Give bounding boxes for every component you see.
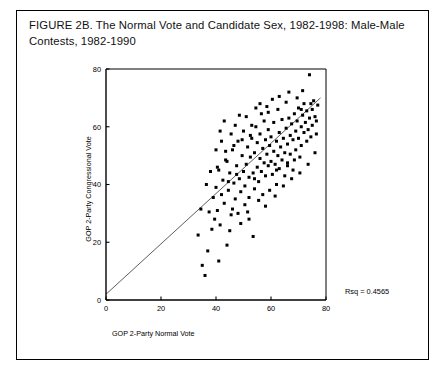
data-point (230, 132, 233, 135)
data-point (305, 109, 308, 112)
data-point (237, 212, 240, 215)
data-point (311, 108, 314, 111)
data-point (286, 143, 289, 146)
data-point (259, 132, 262, 135)
data-points (197, 73, 320, 277)
data-point (274, 163, 277, 166)
data-point (286, 164, 289, 167)
data-point (300, 144, 303, 147)
data-point (309, 135, 312, 138)
data-point (201, 264, 204, 267)
x-tick-label: 0 (104, 304, 108, 313)
data-point (312, 99, 315, 102)
data-point (232, 182, 235, 185)
data-point (264, 174, 267, 177)
y-tick-label: 80 (93, 65, 101, 74)
data-point (215, 148, 218, 151)
data-point (305, 140, 308, 143)
data-point (216, 209, 219, 212)
data-point (208, 210, 211, 213)
data-point (206, 249, 209, 252)
data-point (226, 244, 229, 247)
data-point (254, 106, 257, 109)
data-point (227, 180, 230, 183)
data-point (216, 166, 219, 169)
x-tick-label: 80 (322, 304, 330, 313)
data-point (241, 138, 244, 141)
data-point (263, 119, 266, 122)
data-point (282, 184, 285, 187)
data-point (248, 176, 251, 179)
data-point (281, 158, 284, 161)
data-point (235, 164, 238, 167)
data-point (245, 115, 248, 118)
data-point (221, 179, 224, 182)
data-point (301, 89, 304, 92)
data-point (283, 174, 286, 177)
data-point (227, 189, 230, 192)
data-point (300, 125, 303, 128)
data-point (289, 134, 292, 137)
data-point (270, 135, 273, 138)
data-point (286, 161, 289, 164)
data-point (253, 151, 256, 154)
data-point (274, 195, 277, 198)
data-point (293, 158, 296, 161)
data-point (219, 130, 222, 133)
data-point (197, 234, 200, 237)
data-point (285, 127, 288, 130)
data-point (264, 205, 267, 208)
data-point (256, 141, 259, 144)
data-point (243, 203, 246, 206)
data-point (301, 114, 304, 117)
data-point (276, 108, 279, 111)
data-point (281, 118, 284, 121)
data-point (257, 199, 260, 202)
data-point (232, 144, 235, 147)
plot-area: 020406080020406080 GOP 2-Party Normal Vo… (17, 11, 430, 361)
data-point (253, 177, 256, 180)
data-point (220, 140, 223, 143)
data-point (300, 108, 303, 111)
figure-frame: FIGURE 2B. The Normal Vote and Candidate… (16, 10, 429, 360)
data-point (294, 148, 297, 151)
data-point (278, 95, 281, 98)
data-point (268, 189, 271, 192)
data-point (223, 202, 226, 205)
data-point (239, 190, 242, 193)
data-point (303, 131, 306, 134)
x-axis-title: GOP 2-Party Normal Vote (112, 329, 195, 338)
data-point (215, 186, 218, 189)
data-point (267, 164, 270, 167)
data-point (308, 73, 311, 76)
data-point (316, 104, 319, 107)
data-point (275, 169, 278, 172)
data-point (314, 115, 317, 118)
data-point (250, 137, 253, 140)
data-point (256, 166, 259, 169)
data-point (219, 223, 222, 226)
data-point (204, 274, 207, 277)
data-point (205, 183, 208, 186)
data-point (298, 171, 301, 174)
axis-tick-labels: 020406080020406080 (93, 65, 330, 313)
data-point (254, 125, 257, 128)
data-point (226, 160, 229, 163)
data-point (199, 208, 202, 211)
data-point (228, 171, 231, 174)
data-point (263, 161, 266, 164)
data-point (278, 167, 281, 170)
data-point (287, 91, 290, 94)
data-point (275, 140, 278, 143)
data-point (265, 153, 268, 156)
data-point (292, 169, 295, 172)
data-point (264, 138, 267, 141)
data-point (307, 128, 310, 131)
data-point (265, 105, 268, 108)
data-point (282, 137, 285, 140)
data-point (212, 196, 215, 199)
x-tick-label: 20 (157, 304, 165, 313)
data-point (241, 154, 244, 157)
data-point (261, 147, 264, 150)
data-point (220, 193, 223, 196)
